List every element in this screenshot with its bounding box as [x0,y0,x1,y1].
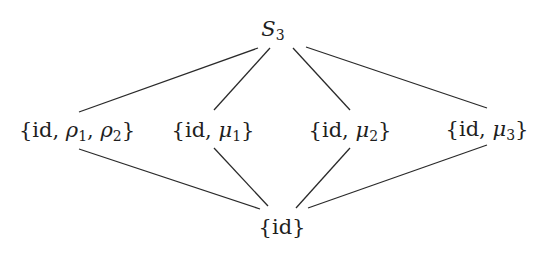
subscript: 1 [78,128,87,144]
identity-label: id [459,117,479,141]
brace-open: { [446,117,459,141]
node-s3: S3 [261,19,284,42]
brace-close: } [515,117,528,141]
brace-open: { [259,215,272,239]
brace-close: } [241,118,254,142]
brace-open: { [19,118,32,142]
edge-mu2-id [296,148,350,208]
edge-rho-id [79,149,260,209]
identity-label: id [32,118,52,142]
node-rotation-subgroup: {id, ρ1, ρ2} [19,120,135,143]
brace-open: { [309,118,322,142]
identity-label: id [185,118,205,142]
comma: , [342,118,355,142]
rho-symbol: ρ [66,118,78,142]
brace-close: } [122,118,135,142]
rho-symbol: ρ [100,118,112,142]
edge-s3-mu1 [214,48,270,110]
edge-s3-rho [79,48,258,112]
node-mu2-subgroup: {id, μ2} [309,120,392,143]
subscript: 2 [113,128,122,144]
edge-s3-mu3 [306,47,487,108]
identity-label: id [272,215,292,239]
comma: , [52,118,65,142]
mu-symbol: μ [355,118,369,142]
node-s3-base: S [261,17,275,41]
node-trivial-subgroup: {id} [259,217,306,238]
node-mu1-subgroup: {id, μ1} [172,120,255,143]
node-mu3-subgroup: {id, μ3} [446,119,529,142]
node-s3-subscript: 3 [276,27,285,43]
brace-open: { [172,118,185,142]
identity-label: id [322,118,342,142]
comma: , [87,118,100,142]
subgroup-lattice-diagram: S3 {id, ρ1, ρ2} {id, μ1} {id, μ2} {id, μ… [0,0,547,258]
edge-s3-mu2 [293,48,350,110]
edge-mu1-id [214,148,268,206]
comma: , [205,118,218,142]
brace-close: } [292,215,305,239]
mu-symbol: μ [492,117,506,141]
edge-mu3-id [308,145,487,208]
comma: , [479,117,492,141]
brace-close: } [378,118,391,142]
mu-symbol: μ [218,118,232,142]
